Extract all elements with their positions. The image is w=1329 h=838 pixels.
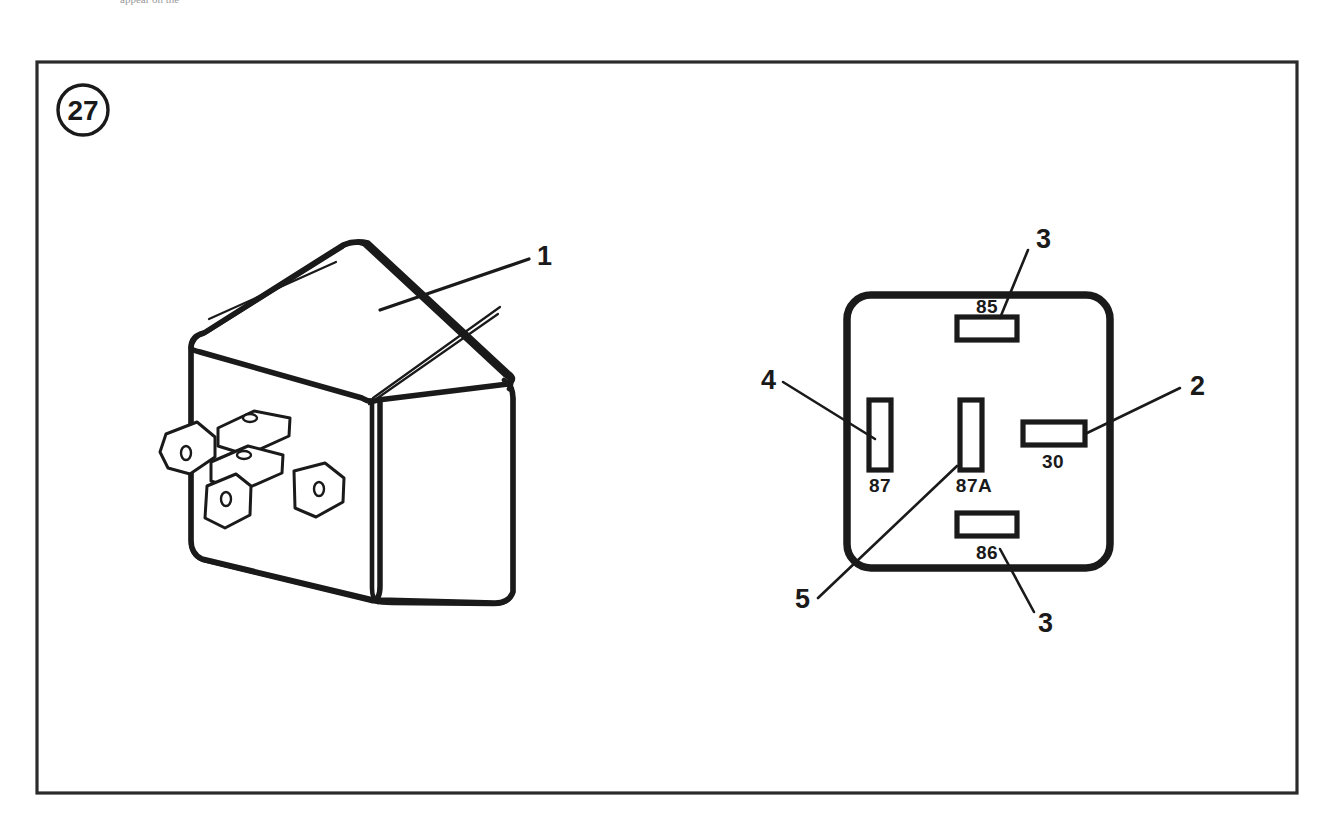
terminal-slot-86 xyxy=(957,513,1017,536)
callout-4-number: 4 xyxy=(761,365,776,395)
relay-terminal-tab-4-hole xyxy=(221,492,231,506)
relay-terminal-tab-3-hole xyxy=(237,451,251,459)
callout-3-top-number: 3 xyxy=(1036,224,1051,254)
callout-5-number: 5 xyxy=(795,584,810,614)
relay-terminal-tab-1-hole xyxy=(243,414,257,422)
figure-marker-number: 27 xyxy=(67,95,98,126)
relay-terminal-tab-2-hole xyxy=(181,446,191,460)
terminal-label-87a: 87A xyxy=(956,475,992,496)
diagram-page: appear on the 27 xyxy=(0,0,1329,838)
terminal-label-86: 86 xyxy=(976,542,998,563)
terminal-slot-87 xyxy=(869,400,891,470)
terminal-label-30: 30 xyxy=(1042,451,1064,472)
terminal-slot-85 xyxy=(957,317,1017,340)
figure-canvas: 27 xyxy=(0,0,1329,838)
relay-base-view: 85 87 87A 30 86 3 2 4 5 xyxy=(761,224,1205,638)
terminal-label-85: 85 xyxy=(976,296,998,317)
relay-front-face xyxy=(367,380,513,603)
terminal-slot-87a xyxy=(960,400,982,470)
callout-3-bottom-number: 3 xyxy=(1038,608,1053,638)
figure-marker: 27 xyxy=(58,85,108,135)
relay-top-front-junction xyxy=(363,399,372,402)
terminal-label-87: 87 xyxy=(869,475,891,496)
terminal-slot-30 xyxy=(1023,422,1085,445)
callout-2-number: 2 xyxy=(1190,371,1205,401)
callout-1-number: 1 xyxy=(537,241,552,271)
relay-body-view: 1 xyxy=(160,241,552,604)
relay-terminal-tab-5-hole xyxy=(314,482,324,496)
